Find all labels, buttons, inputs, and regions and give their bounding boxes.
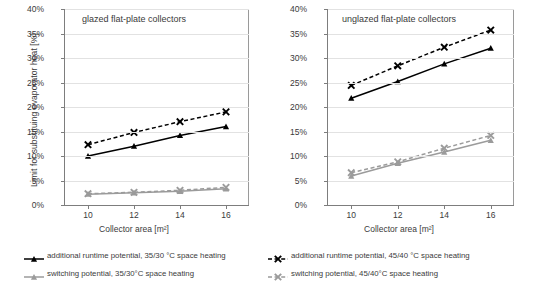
- y-tick-label: 25%: [14, 78, 44, 88]
- x-tick-label: 12: [393, 210, 402, 220]
- y-tick-label: 5%: [14, 176, 44, 186]
- chart-panel-unglazed: 0%5%10%15%20%25%30%35%40% 10121416 ungla…: [265, 0, 533, 245]
- y-tick-label: 35%: [277, 29, 307, 39]
- grid-line: [328, 156, 514, 157]
- x-tick-mark: [444, 205, 445, 209]
- x-tick-mark: [398, 205, 399, 209]
- y-tick-mark: [324, 132, 328, 133]
- grid-line: [65, 107, 249, 108]
- x-tick-label: 16: [221, 210, 230, 220]
- y-tick-mark: [61, 107, 65, 108]
- legend: additional runtime potential, 35/30 °C s…: [0, 248, 533, 291]
- x-axis-tick-labels: 10121416: [328, 205, 514, 221]
- y-tick-label: 30%: [277, 53, 307, 63]
- line-marker-cross-dashed-gray-icon: [268, 268, 288, 278]
- x-axis-tick-labels: 10121416: [65, 205, 249, 221]
- data-point-cross-marker: [488, 27, 494, 33]
- series-line: [351, 135, 491, 172]
- x-tick-label: 14: [440, 210, 449, 220]
- chart-title-unglazed: unglazed flat-plate collectors: [265, 14, 533, 24]
- y-tick-mark: [61, 205, 65, 206]
- series-line: [351, 48, 491, 98]
- y-tick-label: 25%: [277, 78, 307, 88]
- grid-line: [328, 34, 514, 35]
- y-tick-mark: [61, 9, 65, 10]
- y-tick-label: 20%: [277, 102, 307, 112]
- grid-line: [328, 181, 514, 182]
- data-point-cross-marker: [395, 63, 401, 69]
- data-point-triangle-marker: [488, 45, 494, 51]
- grid-line: [328, 9, 514, 10]
- line-marker-cross-dashed-black-icon: [268, 250, 288, 260]
- y-tick-mark: [324, 181, 328, 182]
- y-tick-mark: [61, 181, 65, 182]
- y-tick-mark: [61, 34, 65, 35]
- legend-item[interactable]: switching potential, 45/40°C space heati…: [268, 268, 438, 278]
- y-tick-mark: [324, 205, 328, 206]
- y-tick-label: 15%: [277, 127, 307, 137]
- legend-item[interactable]: additional runtime potential, 35/30 °C s…: [24, 250, 226, 260]
- x-tick-label: 10: [347, 210, 356, 220]
- x-tick-mark: [88, 205, 89, 209]
- y-tick-mark: [324, 9, 328, 10]
- grid-line: [65, 181, 249, 182]
- x-tick-mark: [226, 205, 227, 209]
- legend-item-label: additional runtime potential, 35/30 °C s…: [47, 251, 226, 260]
- x-axis-label: Collector area [m²]: [0, 224, 268, 234]
- y-tick-label: 5%: [277, 176, 307, 186]
- y-tick-label: 10%: [277, 151, 307, 161]
- y-tick-mark: [61, 58, 65, 59]
- x-tick-mark: [351, 205, 352, 209]
- x-tick-mark: [491, 205, 492, 209]
- legend-item-label: switching potential, 45/40°C space heati…: [291, 269, 438, 278]
- y-tick-label: 0%: [277, 200, 307, 210]
- legend-item[interactable]: additional runtime potential, 45/40 °C s…: [268, 250, 470, 260]
- y-tick-mark: [61, 83, 65, 84]
- data-point-cross-marker: [441, 44, 447, 50]
- x-tick-label: 10: [83, 210, 92, 220]
- legend-item-label: additional runtime potential, 45/40 °C s…: [291, 251, 470, 260]
- y-tick-label: 35%: [14, 29, 44, 39]
- grid-line: [65, 58, 249, 59]
- series-line: [88, 112, 226, 145]
- grid-line: [65, 9, 249, 10]
- y-axis-tick-labels: 0%5%10%15%20%25%30%35%40%: [265, 0, 307, 196]
- y-tick-mark: [324, 34, 328, 35]
- plot-area-unglazed: 10121416: [327, 9, 514, 206]
- x-tick-label: 12: [129, 210, 138, 220]
- grid-line: [328, 132, 514, 133]
- y-tick-mark: [324, 83, 328, 84]
- figure-root: Limit for substituing evaporator heat [%…: [0, 0, 533, 291]
- plot-area-glazed: 10121416: [64, 9, 249, 206]
- grid-line: [328, 58, 514, 59]
- y-axis-tick-labels: 0%5%10%15%20%25%30%35%40%: [0, 0, 44, 196]
- y-tick-label: 15%: [14, 127, 44, 137]
- grid-line: [65, 132, 249, 133]
- line-marker-triangle-solid-black-icon: [24, 250, 44, 260]
- y-tick-label: 0%: [14, 200, 44, 210]
- y-tick-label: 10%: [14, 151, 44, 161]
- legend-item[interactable]: switching potential, 35/30°C space heati…: [24, 268, 194, 278]
- x-tick-label: 16: [486, 210, 495, 220]
- y-tick-label: 40%: [14, 4, 44, 14]
- grid-line: [328, 107, 514, 108]
- y-tick-label: 30%: [14, 53, 44, 63]
- y-tick-mark: [324, 58, 328, 59]
- x-tick-mark: [180, 205, 181, 209]
- y-tick-mark: [61, 156, 65, 157]
- line-marker-triangle-solid-gray-icon: [24, 268, 44, 278]
- y-tick-mark: [324, 107, 328, 108]
- x-tick-label: 14: [175, 210, 184, 220]
- x-tick-mark: [134, 205, 135, 209]
- series-line: [351, 140, 491, 176]
- y-tick-mark: [61, 132, 65, 133]
- grid-line: [65, 156, 249, 157]
- x-axis-label: Collector area [m²]: [265, 224, 533, 234]
- y-tick-label: 40%: [277, 4, 307, 14]
- chart-panel-glazed: Limit for substituing evaporator heat [%…: [0, 0, 268, 245]
- y-tick-mark: [324, 156, 328, 157]
- y-tick-label: 20%: [14, 102, 44, 112]
- grid-line: [65, 34, 249, 35]
- legend-item-label: switching potential, 35/30°C space heati…: [47, 269, 194, 278]
- grid-line: [328, 83, 514, 84]
